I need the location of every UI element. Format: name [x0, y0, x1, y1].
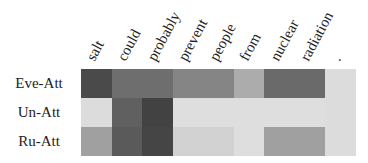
heatmap-cell — [203, 98, 234, 127]
column-label: from — [236, 30, 265, 64]
heatmap-cell — [325, 69, 356, 98]
heatmap-cell — [81, 69, 112, 98]
heatmap-cell — [142, 127, 173, 156]
heatmap-cell — [234, 127, 265, 156]
heatmap-cell — [112, 98, 143, 127]
row-labels: Eve-AttUn-AttRu-Att — [0, 69, 78, 156]
heatmap-cell — [264, 69, 295, 98]
heatmap-cell — [142, 98, 173, 127]
heatmap-cell — [295, 69, 326, 98]
heatmap-cell — [234, 98, 265, 127]
heatmap-grid — [81, 69, 356, 156]
heatmap-cell — [234, 69, 265, 98]
row-label: Un-Att — [0, 98, 78, 127]
heatmap-cell — [264, 127, 295, 156]
heatmap-cell — [81, 127, 112, 156]
heatmap-cell — [173, 69, 204, 98]
heatmap-cell — [81, 98, 112, 127]
heatmap-cell — [173, 127, 204, 156]
row-label: Eve-Att — [0, 69, 78, 98]
heatmap-cell — [264, 98, 295, 127]
heatmap-cell — [203, 69, 234, 98]
column-label: . — [328, 53, 345, 64]
column-labels: saltcouldprobablypreventpeoplefromnuclea… — [81, 0, 356, 68]
heatmap-cell — [203, 127, 234, 156]
heatmap-cell — [173, 98, 204, 127]
column-label: salt — [83, 38, 108, 64]
heatmap-cell — [112, 69, 143, 98]
heatmap-cell — [112, 127, 143, 156]
row-label: Ru-Att — [0, 127, 78, 156]
column-label: could — [114, 27, 145, 64]
heatmap-cell — [142, 69, 173, 98]
heatmap-cell — [325, 127, 356, 156]
heatmap-cell — [295, 127, 326, 156]
heatmap-cell — [295, 98, 326, 127]
heatmap-cell — [325, 98, 356, 127]
column-label: nuclear — [267, 17, 303, 64]
column-label: people — [205, 21, 239, 64]
